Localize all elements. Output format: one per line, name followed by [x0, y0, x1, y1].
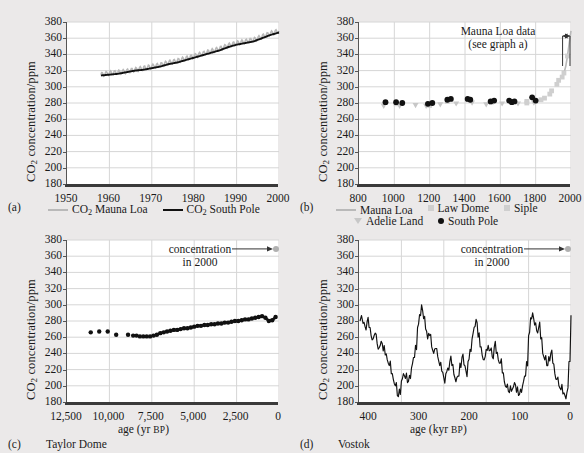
y-tick-mark [63, 321, 66, 322]
y-tick-label: 360 [337, 250, 354, 262]
line-black-icon [163, 209, 183, 211]
co2-figure: CO2 concentration/ppm 180200220240260280… [0, 0, 584, 453]
y-tick-label: 260 [337, 113, 354, 125]
y-tick-label: 260 [337, 331, 354, 343]
y-tick-mark [355, 272, 358, 273]
y-tick-mark [63, 256, 66, 257]
y-tick-label: 360 [45, 32, 62, 44]
y-tick-label: 280 [45, 315, 62, 327]
y-tick-mark [63, 402, 66, 403]
y-tick-label: 300 [45, 299, 62, 311]
panel-d-name: Vostok [338, 438, 370, 450]
line-gray-icon [48, 209, 68, 211]
y-tick-mark [63, 87, 66, 88]
y-tick-mark [355, 71, 358, 72]
panel-d-y-axis-label: CO2 concentration/ppm [316, 279, 331, 400]
y-tick-label: 240 [337, 348, 354, 360]
y-tick-mark [355, 256, 358, 257]
y-tick-label: 200 [337, 162, 354, 174]
y-tick-label: 380 [337, 234, 354, 246]
panel-b-y-axis-label: CO2 concentration/ppm [316, 61, 331, 182]
y-tick-mark [63, 119, 66, 120]
y-tick-mark [355, 103, 358, 104]
panel-c-name: Taylor Dome [46, 438, 107, 450]
panel-b: CO2 concentration/ppm 180200220240260280… [292, 0, 584, 226]
legend-label-south-pole: CO2 South Pole [187, 203, 260, 217]
line-gray-icon [336, 209, 356, 211]
y-tick-mark [63, 184, 66, 185]
y-tick-mark [63, 272, 66, 273]
y-label-text: CO2 concentration/ppm [316, 279, 330, 400]
annotation-line2: in 2000 [475, 256, 510, 268]
y-tick-label: 240 [337, 130, 354, 142]
y-tick-label: 320 [45, 283, 62, 295]
y-tick-mark [355, 402, 358, 403]
y-tick-mark [63, 103, 66, 104]
legend-item-siple: Siple [504, 202, 538, 214]
x-label-text: age (yr BP) [118, 423, 169, 435]
square-gray-icon [504, 205, 510, 211]
y-tick-label: 200 [337, 380, 354, 392]
panel-d-x-axis-label: age (kyr BP) [410, 423, 467, 435]
y-tick-label: 220 [45, 364, 62, 376]
y-tick-mark [63, 152, 66, 153]
panel-a-plot [66, 22, 278, 184]
panel-c-x-axis-label: age (yr BP) [118, 423, 169, 435]
y-tick-label: 380 [337, 16, 354, 28]
x-tick-label: 10,000 [93, 411, 125, 423]
y-tick-label: 360 [337, 32, 354, 44]
y-tick-label: 240 [45, 348, 62, 360]
y-tick-label: 220 [45, 146, 62, 158]
y-tick-mark [355, 184, 358, 185]
annotation-line1: Mauna Loa data [461, 25, 536, 37]
panel-b-annotation: Mauna Loa data (see graph a) [442, 25, 554, 51]
y-tick-mark [355, 370, 358, 371]
y-tick-label: 340 [45, 267, 62, 279]
x-tick-label: 7,500 [138, 411, 164, 423]
triangle-gray-icon [354, 218, 362, 224]
panel-a-legend: CO2 Mauna Loa CO2 South Pole [48, 201, 272, 217]
y-tick-label: 320 [45, 65, 62, 77]
y-tick-label: 280 [337, 315, 354, 327]
x-tick-label: 0 [275, 411, 281, 423]
y-tick-mark [63, 289, 66, 290]
y-tick-mark [63, 353, 66, 354]
x-label-text: age (kyr BP) [410, 423, 467, 435]
x-tick-label: 2,500 [223, 411, 249, 423]
y-tick-label: 360 [45, 250, 62, 262]
legend-label-law-dome: Law Dome [438, 202, 489, 214]
x-tick-label: 2000 [559, 193, 582, 205]
panel-d-letter: (d) [300, 438, 313, 450]
y-tick-mark [63, 240, 66, 241]
y-tick-mark [355, 168, 358, 169]
y-tick-label: 320 [337, 65, 354, 77]
dot-black-icon [438, 218, 444, 224]
y-tick-mark [355, 240, 358, 241]
panel-c-y-axis-label: CO2 concentration/ppm [24, 279, 39, 400]
y-tick-label: 200 [45, 380, 62, 392]
y-tick-label: 300 [45, 81, 62, 93]
panel-c: CO2 concentration/ppm 180200220240260280… [0, 226, 292, 453]
y-tick-mark [355, 119, 358, 120]
x-tick-label: 300 [410, 411, 427, 423]
y-tick-label: 300 [337, 299, 354, 311]
y-tick-label: 220 [337, 364, 354, 376]
y-tick-label: 240 [45, 130, 62, 142]
y-tick-label: 340 [337, 267, 354, 279]
annotation-line1: concentration [461, 243, 524, 255]
y-tick-mark [63, 386, 66, 387]
y-label-text: CO2 concentration/ppm [24, 279, 38, 400]
panel-d-annotation: concentration in 2000 [440, 243, 544, 269]
y-tick-mark [63, 305, 66, 306]
y-tick-mark [355, 321, 358, 322]
y-tick-label: 180 [45, 178, 62, 190]
legend-label-mauna-loa: CO2 Mauna Loa [72, 203, 148, 217]
panel-a-y-axis-label: CO2 concentration/ppm [24, 61, 39, 182]
y-tick-mark [355, 22, 358, 23]
legend-label-siple: Siple [514, 202, 538, 214]
y-label-text: CO2 concentration/ppm [24, 61, 38, 182]
y-tick-label: 220 [337, 146, 354, 158]
y-tick-label: 200 [45, 162, 62, 174]
legend-item-law-dome: Law Dome [428, 202, 489, 214]
y-tick-mark [355, 386, 358, 387]
